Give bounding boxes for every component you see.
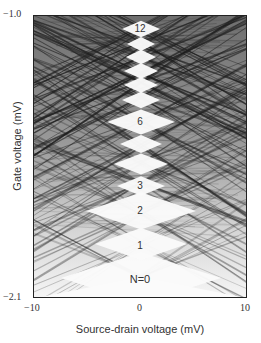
x-tick-left: −10 — [24, 302, 40, 313]
diamond-label-6: 6 — [137, 116, 143, 127]
x-tick-right: 10 — [240, 302, 250, 313]
x-axis-label: Source-drain voltage (mV) — [33, 323, 247, 335]
diamond-label-1: 1 — [137, 240, 143, 251]
y-axis-label: Gate voltage (mV) — [11, 91, 23, 201]
diamond-label-3: 3 — [137, 180, 143, 191]
coulomb-diamond-heatmap — [34, 16, 247, 298]
diamond-label-2: 2 — [137, 205, 143, 216]
x-tick-mid: 0 — [137, 302, 142, 313]
plot-area — [33, 15, 247, 298]
diamond-label-12: 12 — [134, 23, 145, 34]
diamond-label-n0: N=0 — [130, 273, 151, 285]
y-tick-bottom: −2.1 — [3, 291, 21, 302]
y-tick-top: −1.0 — [3, 8, 21, 19]
